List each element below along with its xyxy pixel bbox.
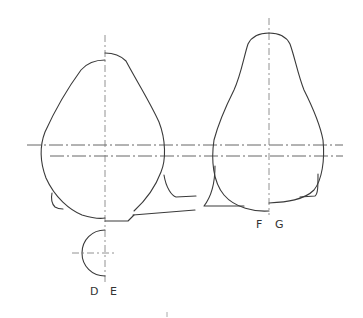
label-g: G <box>275 218 284 231</box>
middle-fillet-upper <box>164 175 196 197</box>
left-profile-right-half <box>105 53 165 211</box>
left-profile <box>41 35 195 285</box>
right-profile <box>204 18 324 215</box>
right-profile-right-half <box>269 33 324 203</box>
left-profile-left-half <box>41 60 105 218</box>
label-e: E <box>110 285 117 298</box>
left-profile-base <box>105 215 134 221</box>
technical-drawing: D E F G <box>0 0 363 318</box>
right-profile-fillet-left <box>204 166 244 206</box>
label-d: D <box>90 285 98 298</box>
right-profile-left-half <box>213 33 269 211</box>
label-f: F <box>256 218 262 231</box>
left-profile-tangent-line <box>133 210 195 215</box>
